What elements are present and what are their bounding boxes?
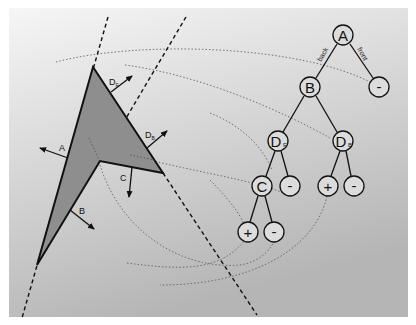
svg-text:-: - xyxy=(377,78,382,95)
svg-text:-: - xyxy=(272,223,277,240)
edge-label-C: C xyxy=(120,173,127,183)
tree-node-DF: D F xyxy=(268,131,288,151)
tree-node-B: B xyxy=(300,77,320,97)
edge-label-B: B xyxy=(79,206,85,216)
svg-text:B: B xyxy=(305,79,315,96)
svg-text:D: D xyxy=(336,133,347,150)
svg-text:F: F xyxy=(283,142,287,148)
svg-text:+: + xyxy=(244,224,253,241)
tree-node-C-front-leaf: - xyxy=(264,222,284,242)
svg-text:B: B xyxy=(348,142,352,148)
svg-text:A: A xyxy=(338,27,348,44)
svg-text:+: + xyxy=(324,178,333,195)
svg-text:D: D xyxy=(271,133,282,150)
tree-node-DB-back-leaf: + xyxy=(318,176,338,196)
bsp-diagram: A B C DF DB back front A B - D xyxy=(0,0,416,325)
tree-node-DF-front-leaf: - xyxy=(280,176,300,196)
tree-node-C-back-leaf: + xyxy=(238,222,258,242)
tree-node-A: A xyxy=(333,25,353,45)
svg-text:-: - xyxy=(352,177,357,194)
tree-node-C: C xyxy=(252,176,272,196)
edge-label-A: A xyxy=(59,143,65,153)
tree-node-DB: D B xyxy=(333,131,353,151)
tree-node-DB-front-leaf: - xyxy=(344,176,364,196)
svg-text:C: C xyxy=(257,178,268,195)
svg-text:-: - xyxy=(288,177,293,194)
tree-node-A-front-leaf: - xyxy=(369,77,389,97)
